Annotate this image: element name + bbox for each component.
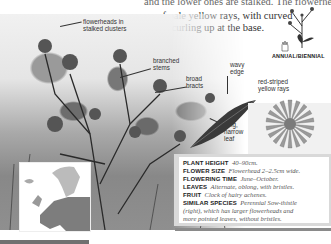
leader-line (227, 76, 228, 94)
fact-similar-species-cont: (right), which has larger flowerheads an… (183, 207, 325, 215)
label-bracts: broad bracts (186, 75, 203, 89)
fact-plant-height: PLANT HEIGHT 40–90cm. (183, 159, 325, 167)
hand-scale-icon (280, 40, 290, 52)
panel-bottom-rule (175, 228, 331, 231)
fact-flowering-time: FLOWERING TIME June–October. (183, 175, 325, 183)
lifecycle-label: ANNUAL/BIENNIAL (272, 53, 325, 59)
fact-similar-species-cont: more pointed leaves, without bristles. (183, 215, 325, 223)
fact-leaves: LEAVES Alternate, oblong, with bristles. (183, 183, 325, 191)
fact-flower-size: FLOWER SIZE Flowerhead 2–2.5cm wide. (183, 167, 325, 175)
species-facts-panel: PLANT HEIGHT 40–90cm. FLOWER SIZE Flower… (179, 157, 329, 223)
label-flowerheads: flowerheads in stalked clusters (83, 18, 126, 32)
label-rays: red-striped yellow rays (258, 78, 289, 92)
cut-text-left: and habitats (6, 0, 40, 2)
europe-distribution-map (19, 162, 91, 232)
label-stems: branched stems (153, 57, 179, 71)
fact-fruit: FRUIT Clock of hairy achenes. (183, 191, 325, 199)
fact-similar-species: SIMILAR SPECIES Perennial Sow-thistle (183, 199, 325, 207)
label-edge: wavy edge (230, 61, 244, 75)
bottom-band (0, 240, 89, 244)
sow-thistle-flower (262, 96, 318, 152)
